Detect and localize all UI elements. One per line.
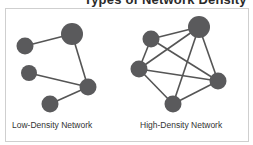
network-node [61, 23, 83, 45]
network-node [143, 31, 160, 48]
network-node [21, 65, 37, 81]
network-edge [29, 73, 88, 87]
network-node [131, 61, 148, 78]
network-node [42, 96, 59, 113]
low-density-network [17, 23, 97, 113]
network-node [188, 16, 210, 38]
network-edge [151, 39, 218, 81]
high-density-network [131, 16, 227, 113]
high-density-label: High-Density Network [140, 120, 222, 130]
low-density-label: Low-Density Network [12, 120, 92, 130]
network-edge [139, 69, 218, 81]
network-node [17, 38, 34, 55]
network-node [165, 96, 182, 113]
network-node [80, 79, 97, 96]
network-node [210, 73, 227, 90]
